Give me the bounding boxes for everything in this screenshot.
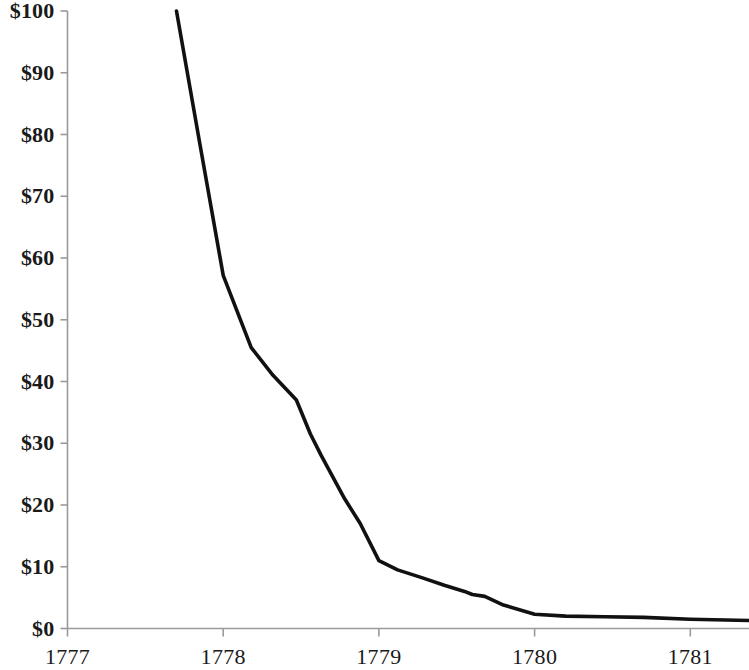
y-axis-tick-label: $10 (21, 556, 55, 578)
y-axis-tick-label: $100 (10, 0, 55, 22)
x-axis-tick-marks (68, 629, 691, 637)
data-series-line (176, 11, 749, 620)
y-axis-tick-label: $20 (21, 494, 55, 516)
line-chart: $100$90$80$70$60$50$40$30$20$10$0 177717… (0, 0, 749, 670)
chart-plot-area (0, 0, 749, 670)
x-axis-tick-label: 1781 (630, 646, 749, 668)
y-axis-tick-label: $0 (32, 618, 54, 640)
y-axis-tick-label: $40 (21, 371, 55, 393)
x-axis-tick-label: 1780 (475, 646, 595, 668)
x-axis-tick-label: 1777 (8, 646, 128, 668)
y-axis-tick-marks (61, 11, 68, 629)
y-axis-tick-label: $80 (21, 124, 55, 146)
y-axis-tick-label: $30 (21, 432, 55, 454)
y-axis-tick-label: $70 (21, 185, 55, 207)
x-axis-tick-label: 1779 (319, 646, 439, 668)
y-axis-tick-label: $50 (21, 309, 55, 331)
y-axis-tick-label: $60 (21, 247, 55, 269)
y-axis-tick-label: $90 (21, 62, 55, 84)
x-axis-tick-label: 1778 (163, 646, 283, 668)
